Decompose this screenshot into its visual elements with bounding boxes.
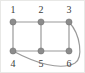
node-label-5: 5 [35,59,47,69]
node-label-4: 4 [7,59,19,69]
node-2[interactable] [38,19,44,25]
node-label-2: 2 [35,5,47,15]
node-label-6: 6 [63,59,75,69]
node-6[interactable] [66,48,72,54]
graph-figure: 1 2 3 4 5 6 [0,0,85,73]
node-label-3: 3 [63,5,75,15]
node-label-1: 1 [7,5,19,15]
node-4[interactable] [10,48,16,54]
node-5[interactable] [38,48,44,54]
node-3[interactable] [66,19,72,25]
node-1[interactable] [10,19,16,25]
